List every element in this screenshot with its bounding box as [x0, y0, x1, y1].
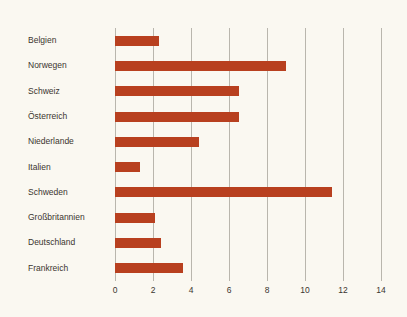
x-tick-label: 0	[113, 285, 118, 295]
bar-row	[115, 104, 381, 129]
x-tick-label: 8	[265, 285, 270, 295]
category-label: Deutschland	[6, 230, 102, 255]
category-labels: BelgienNorwegenSchweizÖsterreichNiederla…	[0, 28, 110, 281]
category-label: Schweiz	[6, 79, 102, 104]
category-label: Österreich	[6, 104, 102, 129]
bar	[115, 112, 239, 122]
category-label: Italien	[6, 155, 102, 180]
gridline-14	[381, 28, 382, 281]
bar	[115, 238, 161, 248]
x-tick-label: 6	[227, 285, 232, 295]
bar-row	[115, 180, 381, 205]
x-tick-label: 12	[338, 285, 347, 295]
category-label: Großbritannien	[6, 205, 102, 230]
bar-row	[115, 79, 381, 104]
bar-row	[115, 230, 381, 255]
category-label: Belgien	[6, 28, 102, 53]
bar	[115, 162, 140, 172]
bar-row	[115, 256, 381, 281]
x-axis-ticks: 02468101214	[115, 285, 381, 307]
category-label: Frankreich	[6, 256, 102, 281]
bar-row	[115, 53, 381, 78]
category-label: Niederlande	[6, 129, 102, 154]
x-tick-label: 14	[376, 285, 385, 295]
bar	[115, 187, 332, 197]
category-label: Schweden	[6, 180, 102, 205]
bar	[115, 61, 286, 71]
bar	[115, 213, 155, 223]
bar-row	[115, 205, 381, 230]
category-label: Norwegen	[6, 53, 102, 78]
bar-row	[115, 155, 381, 180]
x-tick-label: 2	[151, 285, 156, 295]
bar-row	[115, 28, 381, 53]
bars-layer	[115, 28, 381, 281]
bar	[115, 263, 183, 273]
bar-row	[115, 129, 381, 154]
x-tick-label: 4	[189, 285, 194, 295]
bar	[115, 86, 239, 96]
bar	[115, 137, 199, 147]
x-tick-label: 10	[300, 285, 309, 295]
bar-chart: BelgienNorwegenSchweizÖsterreichNiederla…	[0, 0, 407, 317]
bar	[115, 36, 159, 46]
